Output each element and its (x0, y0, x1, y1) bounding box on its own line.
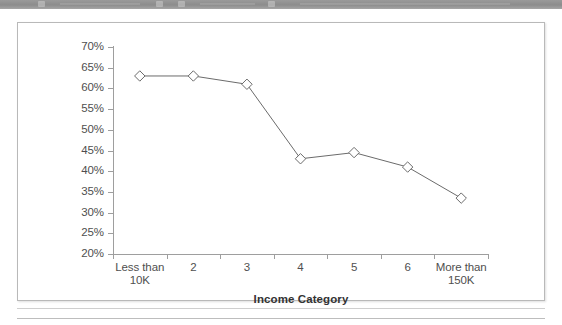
data-point-marker (456, 193, 466, 203)
data-point-marker (135, 71, 145, 81)
page-separator-rule-bottom (17, 318, 545, 319)
cropped-toolbar-strip (0, 0, 562, 9)
toolbar-glyph-4 (268, 1, 275, 7)
x-axis-title: Income Category (113, 293, 489, 305)
series-line (140, 76, 461, 198)
chart-figure-box: 70%65%60%55%50%45%40%35%30%25%20% Less t… (17, 22, 545, 301)
toolbar-streak-1 (60, 3, 140, 5)
data-point-marker (402, 162, 412, 172)
series-plot (18, 23, 546, 302)
toolbar-streak-2 (200, 3, 255, 5)
toolbar-glyph-2 (156, 1, 163, 7)
data-point-marker (295, 154, 305, 164)
toolbar-glyph-3 (178, 1, 185, 7)
data-point-marker (188, 71, 198, 81)
line-chart: 70%65%60%55%50%45%40%35%30%25%20% Less t… (18, 23, 546, 302)
data-point-marker (349, 147, 359, 157)
toolbar-streak-3 (300, 3, 510, 5)
toolbar-glyph-1 (38, 1, 45, 7)
data-point-marker (242, 79, 252, 89)
page-separator-rule-top (17, 308, 545, 309)
